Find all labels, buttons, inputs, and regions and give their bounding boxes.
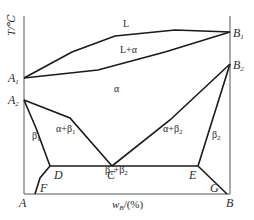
solidus-line xyxy=(24,32,230,78)
region-alpha-beta2: α+β2 xyxy=(163,123,183,136)
x-axis-label: wB/(%) xyxy=(112,198,144,212)
point-B: B xyxy=(226,196,234,210)
point-B1: B1 xyxy=(233,26,244,41)
region-beta2: β2 xyxy=(212,129,221,142)
point-D: D xyxy=(53,168,63,182)
region-liquid: L xyxy=(123,18,129,29)
y-axis-label: T/℃ xyxy=(5,14,17,36)
point-A: A xyxy=(18,196,27,210)
region-liquid-alpha: L+α xyxy=(120,44,138,55)
point-A1: A1 xyxy=(7,71,19,86)
point-F: F xyxy=(39,181,48,195)
phase-diagram: T/℃ A1 A2 B1 B2 A B C D E F G L L+α α α+… xyxy=(0,0,254,220)
solvus-right-line xyxy=(112,64,230,166)
point-B2: B2 xyxy=(233,58,244,73)
point-E: E xyxy=(188,168,197,182)
point-G: G xyxy=(210,181,219,195)
region-beta1: β1 xyxy=(32,130,41,143)
region-alpha: α xyxy=(114,83,120,94)
point-A2: A2 xyxy=(7,93,19,108)
region-alpha-beta1: α+β1 xyxy=(56,123,76,136)
